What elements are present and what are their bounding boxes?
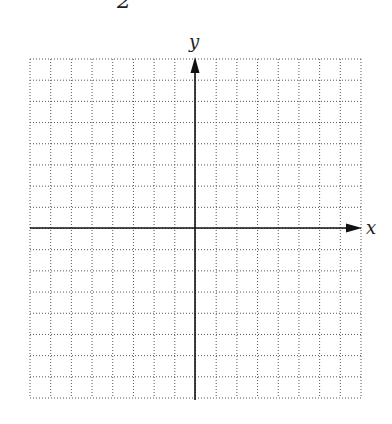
x-axis-label: x [366, 217, 376, 238]
coordinate-grid-figure: 2 x y [0, 0, 392, 424]
y-axis-label: y [188, 31, 200, 52]
x-axis-arrow-icon [346, 224, 362, 233]
problem-number: 2 [116, 0, 131, 13]
